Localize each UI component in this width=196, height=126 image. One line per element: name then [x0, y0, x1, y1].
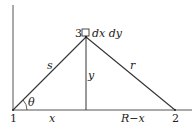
- point-2-label: 2: [172, 112, 179, 125]
- r-minus-x-label: R−x: [120, 112, 145, 125]
- triangle-diagram: 3 dx dy s r y θ 1 x R−x 2: [0, 0, 196, 126]
- side-s: [13, 37, 86, 110]
- point-1-dot: [12, 109, 14, 111]
- point-3-dot: [85, 36, 87, 38]
- theta-arc: [23, 100, 27, 110]
- point-2-dot: [174, 109, 176, 111]
- theta-label: θ: [28, 96, 35, 109]
- point-1-label: 1: [10, 112, 17, 125]
- s-label: s: [47, 59, 53, 72]
- point-3-label: 3: [75, 27, 82, 40]
- element-label: dx dy: [92, 27, 123, 40]
- y-label: y: [87, 69, 95, 82]
- area-element-box: [82, 29, 89, 36]
- x-label: x: [49, 112, 56, 125]
- side-r: [86, 37, 175, 110]
- r-label: r: [130, 59, 136, 72]
